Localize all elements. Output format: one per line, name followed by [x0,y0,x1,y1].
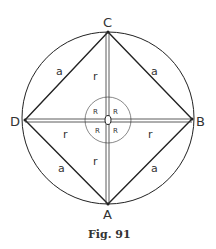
vertex-dot-a [107,203,110,206]
vertex-dot-d [24,119,27,122]
vertex-label-a: A [103,207,112,222]
radius-label-oa: r [93,155,98,168]
vertex-dot-b [191,118,194,121]
vertex-label-d: D [10,114,20,129]
side-label-da: a [58,162,65,175]
center-point-o [105,116,111,125]
vertex-label-c: C [103,15,112,30]
figure-caption: Fig. 91 [88,228,131,241]
radius-label-od: r [63,128,68,141]
angle-label-bl: R [95,127,100,135]
side-label-dc: a [56,65,63,78]
angle-label-tl: R [93,108,98,116]
figure-91-diagram: C B A D a a a a r r r r R R R R Fig. 91 [0,0,216,249]
radius-label-oc: r [93,70,98,83]
angle-label-tr: R [113,108,118,116]
side-label-ab: a [151,162,158,175]
vertex-label-b: B [196,114,205,129]
angle-label-br: R [113,127,118,135]
radius-label-ob: r [148,128,153,141]
vertex-dot-c [107,31,110,34]
side-label-cb: a [151,65,158,78]
